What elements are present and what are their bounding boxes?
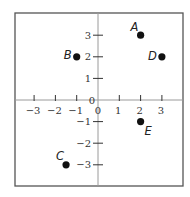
y-tick-label: −1	[76, 116, 91, 127]
point-a: A	[130, 20, 145, 39]
point-d: D	[148, 49, 166, 63]
point-label: A	[130, 20, 139, 34]
y-tick-label: 3	[85, 30, 91, 41]
point-marker	[137, 118, 144, 125]
point-label: C	[56, 149, 64, 163]
point-e: E	[137, 118, 153, 138]
x-tick-label: −3	[26, 105, 41, 116]
point-marker	[73, 53, 80, 60]
x-tick-label: 3	[158, 105, 164, 116]
y-tick-label: −2	[76, 138, 91, 149]
x-tick-label: 1	[115, 105, 121, 116]
y-tick-label: 1	[85, 73, 91, 84]
x-tick-label: −2	[47, 105, 62, 116]
x-tick-label: 0	[95, 105, 101, 116]
point-c: C	[56, 149, 70, 169]
point-label: B	[64, 48, 72, 62]
y-tick-label: 2	[85, 51, 91, 62]
x-tick-label: −1	[68, 105, 83, 116]
y-tick-label: −3	[76, 159, 91, 170]
y-tick-label: 0	[89, 95, 95, 106]
x-tick-label: 2	[136, 105, 142, 116]
point-marker	[158, 53, 165, 60]
point-label: D	[148, 49, 157, 63]
data-points: ABCDE	[56, 20, 165, 168]
point-label: E	[145, 124, 153, 138]
point-b: B	[64, 48, 81, 62]
coordinate-plane: −3−2−10123 −3−2−10123 ABCDE	[0, 0, 190, 197]
